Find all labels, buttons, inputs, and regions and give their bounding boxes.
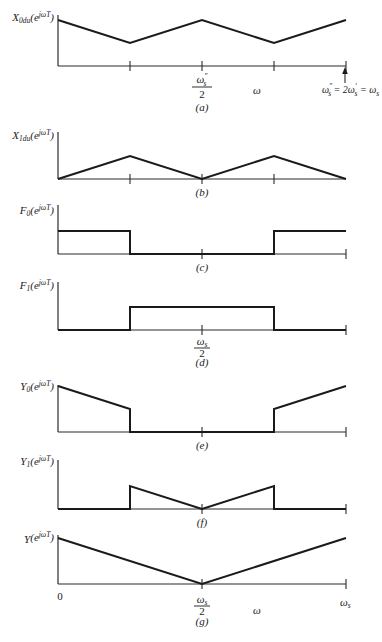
panel-g-origin-label: 0 xyxy=(57,590,63,602)
panel-f-ylabel: Y1(ejωT) xyxy=(20,454,54,469)
spectrum-figure: X0du(ejωT) ω″s 2 ω ω″s = 2ω′s = ωs (a) X… xyxy=(0,0,382,642)
panel-d: F1(ejωT) ωs 2 (d) xyxy=(19,278,346,369)
panel-d-ylabel: F1(ejωT) xyxy=(19,278,55,293)
panel-e-caption: (e) xyxy=(196,439,209,452)
panel-d-caption: (d) xyxy=(196,356,209,369)
panel-g-ylabel: Y(ejωT) xyxy=(24,530,54,545)
panel-a-ylabel: X0du(ejωT) xyxy=(11,10,54,25)
panel-d-plot xyxy=(58,282,346,335)
panel-a-plot xyxy=(58,15,346,71)
panel-b-ylabel: X1du(ejωT) xyxy=(11,128,54,143)
panel-a-sampling-relation-label: ω″s = 2ω′s = ωs xyxy=(322,82,379,98)
panel-f-caption: (f) xyxy=(197,516,208,529)
panel-f: Y1(ejωT) (f) xyxy=(20,454,346,529)
panel-f-plot xyxy=(58,460,346,514)
panel-a-spectrum-curve xyxy=(58,20,346,43)
panel-a-half-sampling-numerator: ω″s xyxy=(197,72,209,88)
panel-g-caption: (g) xyxy=(196,615,209,628)
panel-g-spectrum-curve xyxy=(58,538,346,584)
panel-c-caption: (c) xyxy=(196,261,209,274)
panel-e-plot xyxy=(58,385,346,437)
panel-c: F0(ejωT) (c) xyxy=(19,203,346,274)
panel-g-plot xyxy=(58,535,346,589)
panel-a-half-sampling-denominator: 2 xyxy=(199,88,205,100)
panel-b: X1du(ejωT) (b) xyxy=(11,128,346,199)
panel-b-plot xyxy=(58,132,346,184)
panel-e: Y0(ejωT) (e) xyxy=(20,379,346,452)
panel-a-caption: (a) xyxy=(196,101,209,114)
panel-c-ylabel: F0(ejωT) xyxy=(19,203,55,218)
panel-c-plot xyxy=(58,205,346,259)
panel-g-omega-axis-label: ω xyxy=(253,604,261,616)
panel-g-sampling-frequency-label: ωs xyxy=(340,596,351,610)
panel-b-caption: (b) xyxy=(196,186,209,199)
panel-e-spectrum-curve xyxy=(58,386,346,432)
panel-a: X0du(ejωT) ω″s 2 ω ω″s = 2ω′s = ωs (a) xyxy=(11,10,379,114)
panel-e-ylabel: Y0(ejωT) xyxy=(20,379,54,394)
panel-g: Y(ejωT) 0 ωs 2 ω ωs (g) xyxy=(24,530,351,628)
panel-a-omega-axis-label: ω xyxy=(253,84,261,96)
arrow-up-icon xyxy=(342,67,348,74)
